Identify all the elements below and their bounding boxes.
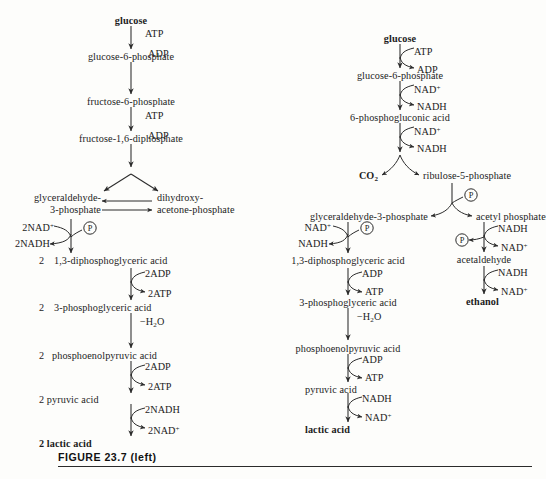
node-acetaldehyde: acetaldehyde [457, 254, 511, 265]
cofactor-2nadh-in: 2NADH [145, 404, 180, 415]
phosphate-circle-icon-acetyl: P [460, 236, 465, 245]
cofactor-nadh-in-right: NADH [362, 393, 392, 404]
node-glucose-6-phosphate-left: glucose-6-phosphate [88, 51, 174, 62]
node-lactic-acid-right: lactic acid [305, 424, 350, 435]
cofactor-2adp-in-2: 2ADP [145, 361, 171, 372]
cofactor-nadh-out-2: NADH [417, 143, 447, 154]
cofactor-atp-in-right: ATP [414, 46, 432, 57]
node-glyceraldehyde-3-phosphate-line1: glyceraldehyde- [34, 192, 101, 203]
node-ethanol: ethanol [466, 296, 499, 307]
node-carbon-dioxide: CO2 [359, 170, 378, 185]
cofactor-atp-in-1: ATP [145, 28, 163, 39]
node-3-phosphoglyceric-acid-right: 3-phosphoglyceric acid [299, 297, 397, 308]
cofactor-2atp-out-2: 2ATP [148, 381, 172, 392]
node-glyceraldehyde-3-phosphate-line2: 3-phosphate [50, 204, 101, 215]
node-1-3-diphosphoglyceric-acid-left: 1,3-diphosphoglyceric acid [54, 255, 168, 266]
cofactor-2atp-out-1: 2ATP [148, 288, 172, 299]
node-glucose-right: glucose [384, 33, 416, 44]
node-2-lactic-acid: 2 lactic acid [39, 438, 92, 449]
cofactor-nadh-out-3: NADH [298, 238, 328, 249]
node-pyruvic-acid-right: pyruvic acid [305, 384, 357, 395]
cofactor-2adp-in-1: 2ADP [145, 268, 171, 279]
coefficient-2-dpg: 2 [39, 255, 44, 266]
cofactor-nad-in-1: NAD+ [414, 83, 440, 95]
node-2-pyruvic-acid: 2 pyruvic acid [39, 394, 99, 405]
node-glucose-6-phosphate-right: glucose-6-phosphate [357, 70, 443, 81]
cofactor-nad-out-acetyl: NAD+ [501, 241, 527, 253]
cofactor-atp-out-right-2: ATP [365, 372, 383, 383]
cofactor-atp-out-right-1: ATP [365, 286, 383, 297]
node-fructose-1-6-diphosphate: fructose-1,6-diphosphate [79, 133, 183, 144]
node-glucose-left: glucose [115, 15, 147, 26]
node-phosphoenolpyruvic-acid-left: phosphoenolpyruvic acid [52, 350, 157, 361]
cofactor-atp-in-2: ATP [145, 110, 163, 121]
node-dihydroxyacetone-phosphate-line2: acetone-phosphate [157, 204, 235, 215]
cofactor-2nad-in: 2NAD+ [22, 221, 54, 233]
node-3-phosphoglyceric-acid-left: 3-phosphoglyceric acid [54, 302, 152, 313]
cofactor-2nadh-out: 2NADH [15, 238, 50, 249]
phosphate-circle-icon-right: P [365, 224, 370, 233]
cofactor-2nad-out: 2NAD+ [148, 424, 180, 436]
node-1-3-diphosphoglyceric-acid-right: 1,3-diphosphoglyceric acid [291, 255, 405, 266]
cofactor-nad-out-right: NAD+ [365, 411, 391, 423]
figure-caption: FIGURE 23.7 (left) [58, 451, 156, 463]
node-fructose-6-phosphate: fructose-6-phosphate [87, 96, 175, 107]
cofactor-minus-water-right: −H2O [357, 311, 381, 326]
cofactor-nadh-in-ethanol: NADH [498, 267, 528, 278]
cofactor-minus-water-left: −H2O [140, 316, 164, 331]
caption-rule [58, 466, 532, 467]
coefficient-2-3pg: 2 [39, 302, 44, 313]
coefficient-2-pep: 2 [39, 350, 44, 361]
cofactor-adp-in-right-1: ADP [362, 268, 383, 279]
node-ribulose-5-phosphate: ribulose-5-phosphate [423, 170, 511, 181]
phosphate-circle-icon-left: P [88, 224, 93, 233]
cofactor-nad-in-2: NAD+ [414, 125, 440, 137]
cofactor-nadh-out-1: NADH [417, 101, 447, 112]
phosphate-circle-icon-ketolase: P [469, 191, 474, 200]
node-dihydroxyacetone-phosphate-line1: dihydroxy- [157, 192, 203, 203]
node-phosphoenolpyruvic-acid-right: phosphoenolpyruvic acid [295, 343, 400, 354]
cofactor-nad-out-ethanol: NAD+ [501, 285, 527, 297]
cofactor-nad-in-3: NAD+ [305, 221, 331, 233]
cofactor-adp-in-right-2: ADP [362, 354, 383, 365]
cofactor-nadh-in-acetyl: NADH [498, 223, 528, 234]
node-6-phosphogluconic-acid: 6-phosphogluconic acid [350, 112, 450, 123]
node-acetyl-phosphate: acetyl phosphate [476, 211, 546, 222]
